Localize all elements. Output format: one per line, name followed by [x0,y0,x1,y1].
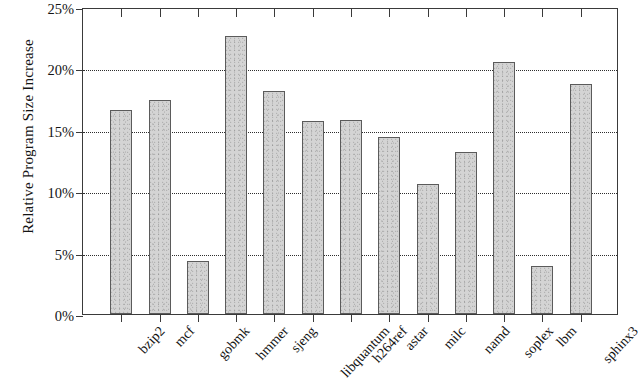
x-axis-category-label: milc [440,323,469,352]
bar [225,36,247,314]
x-axis-tick [466,314,467,322]
y-axis-tick-label: 0% [55,308,74,325]
y-axis-tick-label: 15% [47,123,74,140]
bar [110,110,132,314]
gridline [83,70,617,71]
y-axis-tick [76,193,83,194]
y-axis-tick-label: 10% [47,185,74,202]
x-axis-tick [313,314,314,322]
bar [455,152,477,314]
x-axis-tick-top [236,9,237,17]
x-axis-tick [274,314,275,322]
x-axis-tick [581,314,582,322]
x-axis-tick [160,314,161,322]
bar [263,91,285,314]
x-axis-category-label: bzip2 [136,323,169,357]
x-axis-category-label: sjeng [288,323,320,356]
bar [417,184,439,314]
bar [531,266,553,314]
x-axis-category-label: soplex [520,323,557,361]
plot-area: 0%5%10%15%20%25% [82,8,618,315]
x-axis-category-label: astar [402,323,432,353]
x-axis-tick [121,314,122,322]
y-axis-tick [76,316,83,317]
x-axis-tick [351,314,352,322]
plot-inner: 0%5%10%15%20%25% [83,9,617,314]
x-axis-tick-top [313,9,314,17]
x-axis-tick-top [351,9,352,17]
x-axis-category-label: gobmk [215,323,253,362]
x-axis-category-label: mcf [171,323,198,350]
bar [493,62,515,314]
x-axis-tick [389,314,390,322]
y-axis-tick [76,70,83,71]
x-axis-category-label: namd [480,323,513,357]
x-axis-tick-top [428,9,429,17]
x-axis-tick-top [198,9,199,17]
x-axis-category-label: lbm [554,323,581,350]
x-axis-tick-top [542,9,543,17]
y-axis-tick-label: 20% [47,62,74,79]
x-axis-tick-top [160,9,161,17]
y-axis-tick-label: 25% [47,1,74,18]
x-axis-tick-top [581,9,582,17]
y-axis-title: Relative Program Size Increase [20,0,37,277]
bar [378,137,400,314]
x-axis-tick-top [466,9,467,17]
x-axis-tick-top [274,9,275,17]
x-axis-category-label: hmmer [253,323,292,363]
x-axis-tick-top [389,9,390,17]
bar [149,100,171,314]
x-axis-tick [504,314,505,322]
bar [187,261,209,314]
x-axis-tick [542,314,543,322]
x-axis-tick [236,314,237,322]
y-axis-tick [76,9,83,10]
y-axis-tick-label: 5% [55,246,74,263]
bar [570,84,592,314]
y-axis-tick [76,132,83,133]
bar [302,121,324,314]
x-axis-category-label: sphinx3 [599,323,641,366]
x-axis-tick-top [504,9,505,17]
x-axis-tick [428,314,429,322]
x-axis-tick-top [121,9,122,17]
y-axis-tick [76,255,83,256]
x-axis-tick [198,314,199,322]
bar [340,120,362,314]
